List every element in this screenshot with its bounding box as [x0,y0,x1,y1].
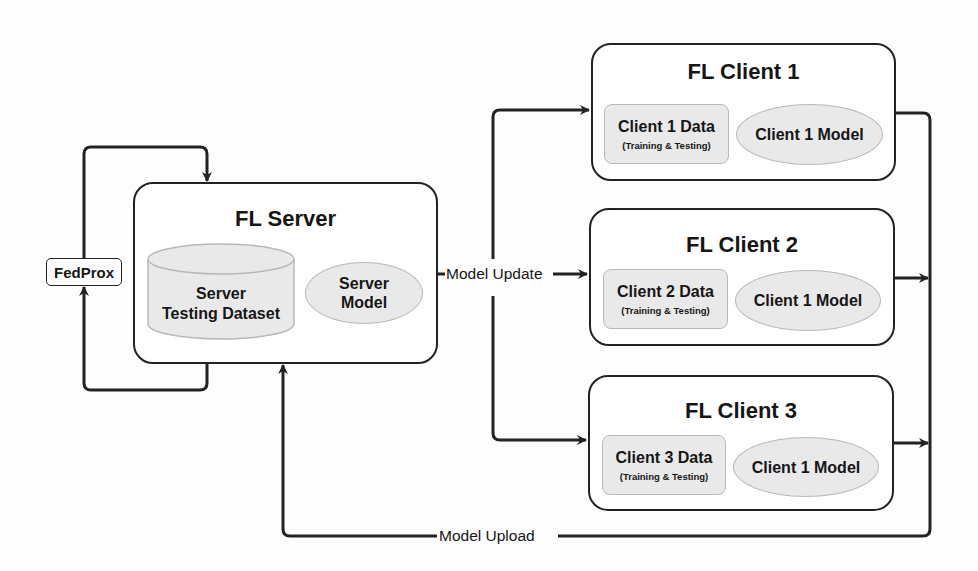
server-model-label-line2: Model [341,293,387,312]
client-1-data-box: Client 1 Data (Training & Testing) [604,104,729,164]
client-2-data-box: Client 2 Data (Training & Testing) [603,269,728,329]
server-testing-dataset-cylinder: Server Testing Dataset [147,243,295,340]
fl-client-1-title: FL Client 1 [593,59,894,85]
client-3-data-box: Client 3 Data (Training & Testing) [602,435,726,495]
server-model-ellipse: Server Model [305,262,423,324]
client-3-data-sublabel: (Training & Testing) [620,470,709,483]
server-model-label-line1: Server [339,274,389,293]
model-update-label: Model Update [445,265,544,283]
update-spine-bottom [493,296,586,440]
fedprox-aggregator-box: FedProx [46,258,122,286]
fl-server-title: FL Server [135,206,436,232]
client-2-data-sublabel: (Training & Testing) [621,304,710,317]
client-1-data-label: Client 1 Data [618,117,715,136]
update-spine-top [493,110,589,259]
model-upload-label: Model Upload [438,527,536,545]
client-3-data-label: Client 3 Data [616,448,713,467]
model-upload-to-server-arrow [283,365,437,536]
client-2-data-label: Client 2 Data [617,282,714,301]
client-1-model-ellipse: Client 1 Model [736,104,883,165]
fl-client-2-title: FL Client 2 [591,232,893,258]
server-dataset-label-line1: Server [147,284,295,304]
client-2-model-ellipse: Client 1 Model [735,270,881,331]
client-1-data-sublabel: (Training & Testing) [622,139,711,152]
fl-client-3-title: FL Client 3 [590,398,892,424]
server-dataset-label-line2: Testing Dataset [147,304,295,324]
client-3-model-ellipse: Client 1 Model [733,437,879,497]
